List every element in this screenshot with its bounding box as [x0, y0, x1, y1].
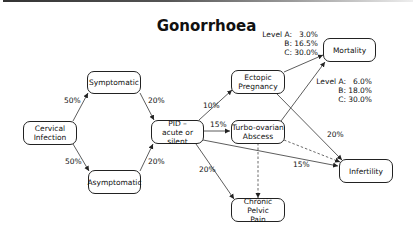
level-row: C: 30.0%	[316, 95, 372, 104]
node-chronic-pelvic-pain: Chronic Pelvic Pain	[231, 198, 285, 222]
mortality-levels: Level A: 3.0% B: 16.5% C: 30.0%	[262, 30, 318, 57]
level-value: 30.0%	[292, 48, 318, 57]
node-pid: PID – acute or silent	[151, 120, 204, 144]
node-label: Abscess	[232, 132, 284, 141]
node-label: Symptomatic	[89, 78, 139, 87]
node-label: Asymptomatic	[87, 178, 141, 187]
level-row: B: 16.5%	[262, 39, 318, 48]
node-label: Mortality	[333, 46, 366, 55]
node-label: acute or silent	[152, 128, 203, 146]
edge-label-cervical-symptomatic: 50%	[64, 96, 81, 105]
level-row: Level A: 3.0%	[262, 30, 318, 39]
node-label: Ectopic	[238, 73, 277, 82]
diagram-edges	[0, 0, 413, 237]
node-infertility: Infertility	[339, 159, 393, 183]
level-key: Level A:	[262, 30, 292, 39]
node-symptomatic: Symptomatic	[87, 71, 141, 94]
level-value: 18.0%	[346, 86, 372, 95]
edge-label-ectopic-infertility: 20%	[327, 130, 344, 139]
node-tubo-ovarian-abscess: Turbo-ovarian Abscess	[231, 120, 285, 144]
node-label: Chronic Pelvic	[232, 197, 284, 215]
level-value: 16.5%	[292, 39, 318, 48]
node-label: Pregnancy	[238, 82, 277, 91]
level-value: 30.0%	[346, 95, 372, 104]
edge-label-pid-chronic: 20%	[199, 165, 216, 174]
level-key: B:	[284, 39, 292, 48]
level-key: C:	[284, 48, 292, 57]
level-value: 6.0%	[346, 77, 372, 86]
edge-label-pid-ectopic: 10%	[203, 101, 220, 110]
node-label: Cervical	[34, 124, 67, 133]
infertility-levels: Level A: 6.0% B: 18.0% C: 30.0%	[316, 77, 372, 104]
level-value: 3.0%	[292, 30, 318, 39]
node-label: Pain	[232, 215, 284, 224]
edge-ectopic-mortality	[284, 55, 323, 72]
node-label: PID –	[152, 119, 203, 128]
node-label: Infection	[34, 133, 67, 142]
level-key: B:	[338, 86, 346, 95]
node-mortality: Mortality	[323, 38, 376, 62]
edge-label-cervical-asymptomatic: 50%	[65, 157, 82, 166]
edge-label-pid-tubo: 15%	[210, 120, 227, 129]
edge-tubo-infertility	[284, 140, 340, 162]
node-label: Infertility	[349, 167, 383, 176]
edge-label-symptomatic-pid: 20%	[148, 96, 165, 105]
node-cervical-infection: Cervical Infection	[23, 121, 77, 145]
edge-label-asymptomatic-pid: 20%	[148, 157, 165, 166]
node-ectopic-pregnancy: Ectopic Pregnancy	[231, 70, 285, 94]
level-key: C:	[338, 95, 346, 104]
level-row: C: 30.0%	[262, 48, 318, 57]
node-asymptomatic: Asymptomatic	[88, 170, 141, 194]
edge-label-pid-infertility: 15%	[293, 160, 310, 169]
level-row: Level A: 6.0%	[316, 77, 372, 86]
level-key: Level A:	[316, 77, 346, 86]
level-row: B: 18.0%	[316, 86, 372, 95]
node-label: Turbo-ovarian	[232, 123, 284, 132]
